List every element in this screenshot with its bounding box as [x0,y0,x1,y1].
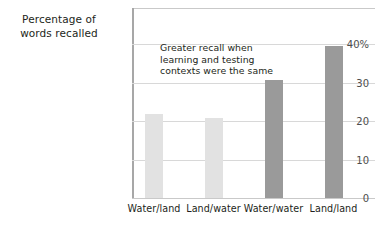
bar-land-land [325,46,343,198]
annotation-line-2: learning and testing [160,54,292,66]
y-axis-title: Percentage of words recalled [6,13,112,40]
annotation-line-1: Greater recall when [160,42,292,54]
bar-water-water [265,80,283,198]
bar-water-land [145,114,163,198]
bars-group [132,8,375,198]
annotation-line-3: contexts were the same [160,65,292,77]
y-axis-title-line-2: words recalled [6,27,112,41]
bar-land-water [205,118,223,198]
x-tick-label-land-land: Land/land [297,203,371,214]
bar-chart: Percentage of words recalled 010203040% … [0,0,375,230]
y-axis-title-line-1: Percentage of [6,13,112,27]
chart-annotation: Greater recall when learning and testing… [160,42,292,77]
